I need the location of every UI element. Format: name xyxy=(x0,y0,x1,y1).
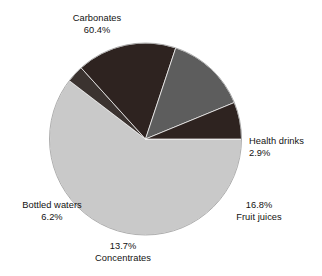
pie-label-concentrates: 13.7% Concentrates xyxy=(77,241,169,264)
pie-label-bottled-waters: Bottled waters 6.2% xyxy=(8,200,96,223)
pie-label-fruit-juices-value: 16.8% xyxy=(217,200,301,212)
pie-label-carbonates: Carbonates 60.4% xyxy=(55,13,139,36)
pie-label-fruit-juices: 16.8% Fruit juices xyxy=(217,200,301,223)
pie-label-health-drinks-value: 2.9% xyxy=(249,148,321,160)
pie-label-carbonates-value: 60.4% xyxy=(55,25,139,37)
pie-label-health-drinks: Health drinks 2.9% xyxy=(249,136,321,159)
pie-label-concentrates-value: 13.7% xyxy=(77,241,169,253)
pie-label-bottled-waters-value: 6.2% xyxy=(8,212,96,224)
pie-label-bottled-waters-name: Bottled waters xyxy=(8,200,96,212)
pie-label-fruit-juices-name: Fruit juices xyxy=(217,212,301,224)
pie-label-concentrates-name: Concentrates xyxy=(77,253,169,265)
pie-label-health-drinks-name: Health drinks xyxy=(249,136,321,148)
pie-label-carbonates-name: Carbonates xyxy=(55,13,139,25)
pie-chart: Carbonates 60.4% Health drinks 2.9% 16.8… xyxy=(0,0,322,276)
